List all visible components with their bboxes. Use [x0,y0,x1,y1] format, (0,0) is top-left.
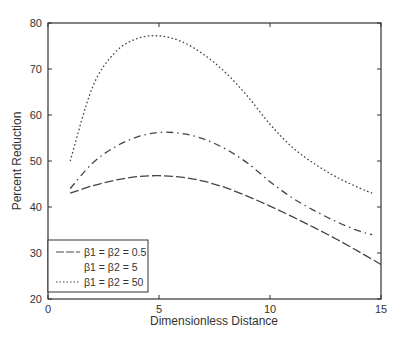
y-tick-label: 60 [30,109,42,121]
x-tick-label: 0 [45,303,51,315]
y-tick-label: 30 [30,247,42,259]
legend-label-1: β1 = β2 = 5 [84,261,138,273]
legend-label-2: β1 = β2 = 50 [84,276,144,288]
y-tick-label: 70 [30,63,42,75]
y-axis-title: Percent Reduction [10,112,24,211]
y-tick-label: 40 [30,201,42,213]
y-tick-label: 20 [30,293,42,305]
y-tick-label: 50 [30,155,42,167]
data-series [70,36,381,265]
y-tick-label: 80 [30,17,42,29]
line-chart: 20304050607080 051015 Dimensionless Dist… [0,0,401,346]
series-line-dash-dot [70,132,372,234]
legend-label-0: β1 = β2 = 0.5 [84,246,146,258]
x-tick-label: 15 [375,303,387,315]
legend: β1 = β2 = 0.5 β1 = β2 = 5 β1 = β2 = 50 [48,240,148,292]
x-axis-title: Dimensionless Distance [150,314,278,328]
series-line-dotted [70,36,372,193]
